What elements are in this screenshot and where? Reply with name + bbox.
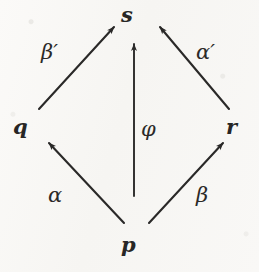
node-label-q: q (13, 116, 28, 137)
node-label-s: s (121, 4, 133, 25)
arrow-label-alpha: α (48, 185, 62, 206)
arrow-alpha-prime (160, 27, 229, 109)
commutative-diagram-figure: s q r p β′ α′ φ α β (0, 0, 259, 272)
arrow-label-beta-prime: β′ (41, 42, 58, 63)
arrow-label-phi: φ (141, 119, 156, 140)
node-label-r: r (226, 116, 237, 137)
arrow-label-alpha-prime: α′ (196, 42, 215, 63)
arrow-label-beta: β (196, 185, 208, 206)
arrow-beta (149, 143, 223, 223)
node-label-p: p (121, 234, 136, 255)
